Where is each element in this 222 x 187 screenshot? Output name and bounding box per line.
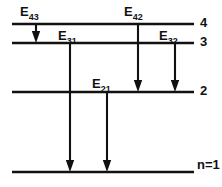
transition-E42-label-base: E [124, 4, 133, 19]
transition-E42-label-subscript: 42 [133, 12, 143, 22]
transition-labels-group: E43E31E21E42E32 [20, 4, 178, 94]
transition-E32-arrowhead [171, 80, 179, 92]
transition-E31-label: E31 [58, 28, 77, 46]
transition-E31-label-base: E [58, 28, 67, 43]
transition-E21-label: E21 [92, 76, 111, 94]
transition-E21-label-base: E [92, 76, 101, 91]
transition-E21-label-subscript: 21 [101, 84, 111, 94]
transition-E21-arrowhead [103, 160, 111, 172]
transition-E43-label-base: E [20, 4, 29, 19]
transition-E31-label-subscript: 31 [67, 36, 77, 46]
level-labels-group: 432n=1 [197, 15, 220, 172]
energy-level-label-4: 4 [200, 15, 208, 30]
transition-E31-arrowhead [66, 160, 74, 172]
energy-levels-group [12, 24, 194, 172]
transitions-group [32, 24, 179, 172]
energy-level-diagram: 432n=1 E43E31E21E42E32 [0, 0, 222, 187]
energy-level-label-1: n=1 [197, 157, 220, 172]
transition-E32-label-subscript: 32 [168, 36, 178, 46]
transition-E43-arrowhead [32, 31, 40, 43]
energy-level-label-2: 2 [200, 83, 207, 98]
transition-E42-label: E42 [124, 4, 143, 22]
transition-E43-label: E43 [20, 4, 39, 22]
transition-E43-label-subscript: 43 [29, 12, 39, 22]
transition-E32-label: E32 [159, 28, 178, 46]
transition-E42-arrowhead [134, 80, 142, 92]
transition-E32-label-base: E [159, 28, 168, 43]
energy-level-svg: 432n=1 E43E31E21E42E32 [0, 0, 222, 187]
energy-level-label-3: 3 [200, 34, 207, 49]
